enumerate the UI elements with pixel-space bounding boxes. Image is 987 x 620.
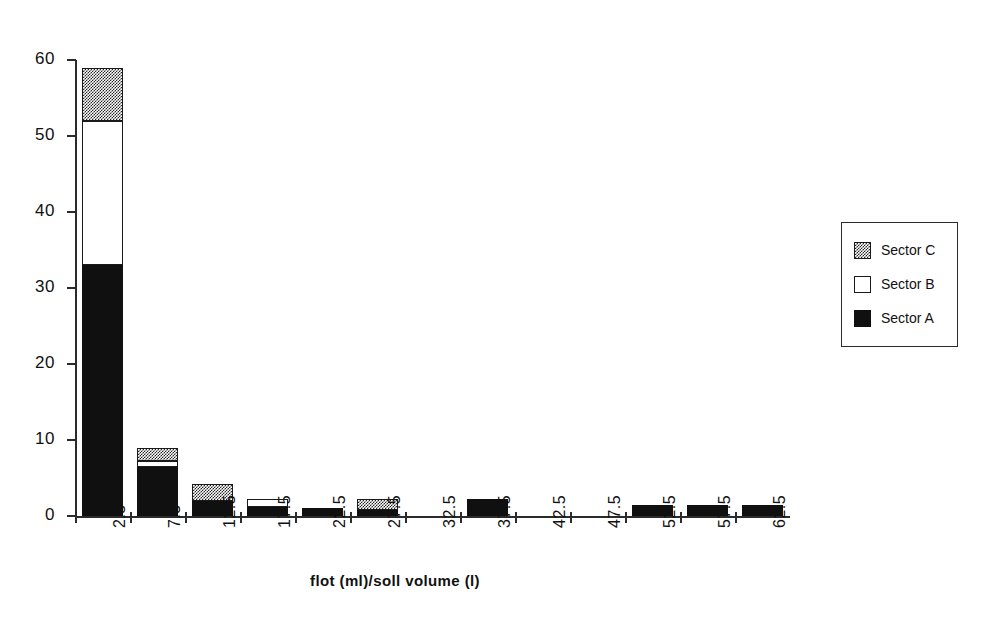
x-tick-label-42.5: 42.5 (551, 495, 569, 528)
x-tick-17.5 (240, 512, 242, 523)
y-tick-label-10: 10 (10, 429, 55, 449)
x-tick-label-22.5: 22.5 (331, 495, 349, 528)
x-tick-57.5 (680, 512, 682, 523)
y-tick-50 (67, 135, 76, 137)
y-tick-10 (67, 439, 76, 441)
x-tick-7.5 (130, 512, 132, 523)
y-tick-label-30: 30 (10, 277, 55, 297)
x-tick-label-27.5: 27.5 (386, 495, 404, 528)
legend-item-sector-b[interactable]: Sector B (854, 267, 957, 301)
y-tick-label-50: 50 (10, 125, 55, 145)
y-tick-20 (67, 363, 76, 365)
y-tick-30 (67, 287, 76, 289)
y-tick-label-20: 20 (10, 353, 55, 373)
x-tick-label-32.5: 32.5 (441, 495, 459, 528)
x-tick-32.5 (405, 512, 407, 523)
x-tick-12.5 (185, 512, 187, 523)
legend-item-sector-c[interactable]: Sector C (854, 233, 957, 267)
bar-segment-sector-a (82, 265, 123, 516)
plot-area: 0102030405060 2.57.512.517.522.527.532.5… (0, 0, 987, 620)
x-tick-47.5 (570, 512, 572, 523)
x-tick-2.5 (75, 512, 77, 523)
legend-label: Sector A (881, 310, 934, 326)
y-tick-40 (67, 211, 76, 213)
x-tick-label-12.5: 12.5 (221, 495, 239, 528)
y-tick-label-60: 60 (10, 49, 55, 69)
legend-item-sector-a[interactable]: Sector A (854, 301, 957, 335)
y-tick-label-0: 0 (10, 505, 55, 525)
x-tick-label-47.5: 47.5 (606, 495, 624, 528)
x-tick-label-57.5: 57.5 (716, 495, 734, 528)
x-tick-label-52.5: 52.5 (661, 495, 679, 528)
bar-segment-sector-b (82, 121, 123, 265)
x-tick-22.5 (295, 512, 297, 523)
x-tick-42.5 (515, 512, 517, 523)
chart-figure: 0102030405060 2.57.512.517.522.527.532.5… (0, 0, 987, 620)
legend-label: Sector C (881, 242, 935, 258)
x-tick-27.5 (350, 512, 352, 523)
bar-segment-sector-b (137, 461, 178, 467)
legend-label: Sector B (881, 276, 935, 292)
x-tick-37.5 (460, 512, 462, 523)
x-tick-label-2.5: 2.5 (111, 504, 129, 528)
x-tick-62.5 (735, 512, 737, 523)
y-tick-label-40: 40 (10, 201, 55, 221)
x-tick-label-62.5: 62.5 (771, 495, 789, 528)
legend-swatch-icon (854, 242, 871, 259)
legend-swatch-icon (854, 276, 871, 293)
y-tick-60 (67, 59, 76, 61)
x-tick-label-7.5: 7.5 (166, 504, 184, 528)
x-tick-label-17.5: 17.5 (276, 495, 294, 528)
chart-legend: Sector CSector BSector A (841, 222, 958, 347)
legend-swatch-icon (854, 310, 871, 327)
bar-segment-sector-c (82, 68, 123, 121)
x-tick-label-37.5: 37.5 (496, 495, 514, 528)
y-axis-line (75, 60, 77, 518)
x-tick-52.5 (625, 512, 627, 523)
x-axis-title: flot (ml)/soll volume (l) (0, 572, 790, 589)
bar-2.5[interactable] (82, 68, 123, 516)
bar-segment-sector-c (137, 448, 178, 461)
